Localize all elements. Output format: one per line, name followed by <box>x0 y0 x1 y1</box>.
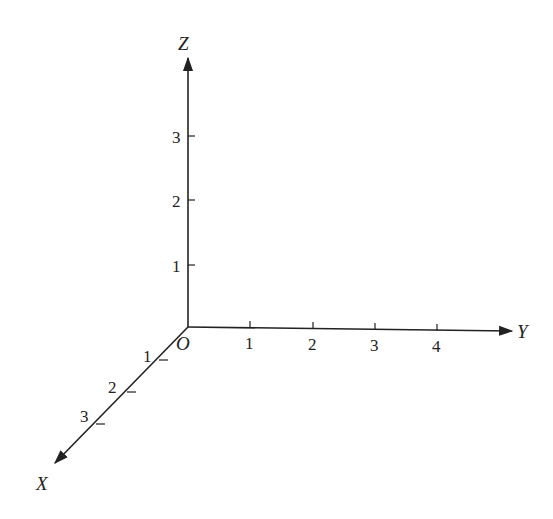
x-ticks <box>96 360 168 424</box>
z-axis-label: Z <box>178 33 189 54</box>
y-tick-label-4: 4 <box>432 337 441 356</box>
z-ticks <box>188 136 195 265</box>
origin-label: O <box>176 333 190 354</box>
x-axis <box>55 327 188 463</box>
x-axis-label: X <box>35 473 49 494</box>
x-tick-label-1: 1 <box>143 347 152 366</box>
z-tick-label-2: 2 <box>172 192 181 211</box>
z-tick-label-1: 1 <box>172 257 181 276</box>
y-axis-label: Y <box>517 321 530 342</box>
z-tick-label-3: 3 <box>172 128 181 147</box>
x-tick-label-3: 3 <box>80 407 89 426</box>
y-axis <box>188 327 512 331</box>
x-tick-label-2: 2 <box>108 378 117 397</box>
coordinate-axes-diagram: 1 2 3 1 2 3 4 1 2 3 Z Y X O <box>0 0 553 519</box>
y-tick-label-2: 2 <box>308 335 317 354</box>
y-tick-label-3: 3 <box>370 336 379 355</box>
y-tick-label-1: 1 <box>245 334 254 353</box>
